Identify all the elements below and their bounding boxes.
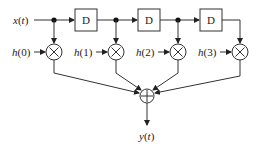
adder bbox=[140, 89, 154, 103]
sum-wire-3 bbox=[155, 60, 240, 93]
coef-label-2: h(2) bbox=[136, 46, 155, 59]
svg-text:D: D bbox=[207, 14, 215, 26]
multiplier-0 bbox=[46, 44, 62, 60]
delay-block-2: D bbox=[138, 9, 160, 31]
multiplier-1 bbox=[108, 44, 124, 60]
multiplier-2 bbox=[170, 44, 186, 60]
sum-wire-2 bbox=[153, 60, 178, 90]
svg-text:D: D bbox=[82, 14, 90, 26]
svg-text:D: D bbox=[145, 14, 153, 26]
multiplier-3 bbox=[232, 44, 248, 60]
delay-block-3: D bbox=[200, 9, 222, 31]
sum-wire-1 bbox=[116, 60, 141, 90]
coef-label-3: h(3) bbox=[198, 46, 217, 59]
output-label: y(t) bbox=[138, 130, 155, 143]
wire-d3-tap3 bbox=[222, 20, 240, 43]
fir-filter-diagram: x(t) D D D h(0) h(1) h(2) h(3) bbox=[0, 0, 260, 150]
sum-wire-0 bbox=[54, 60, 139, 93]
input-label: x(t) bbox=[12, 14, 29, 27]
delay-block-1: D bbox=[75, 9, 97, 31]
coef-label-1: h(1) bbox=[74, 46, 93, 59]
coef-label-0: h(0) bbox=[12, 46, 31, 59]
